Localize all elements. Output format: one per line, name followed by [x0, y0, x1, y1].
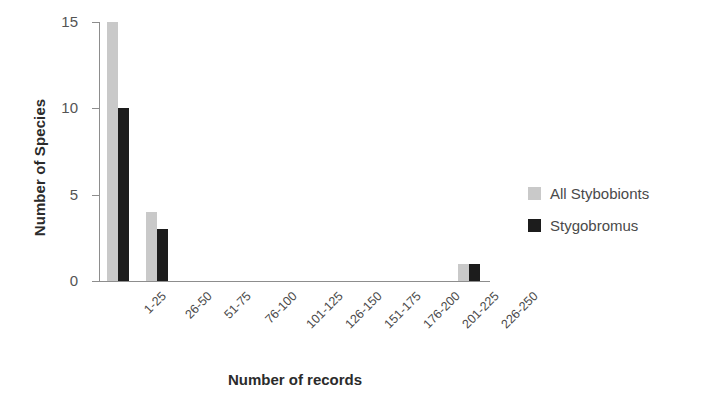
bar-group [295, 22, 334, 281]
y-axis-tick-label: 0 [44, 273, 78, 288]
x-axis-title: Number of records [100, 371, 490, 388]
bar-stygobromus [469, 264, 480, 281]
x-axis-tick-label: 1-25 [141, 289, 169, 317]
x-axis-tick-label: 226-250 [498, 289, 540, 331]
bar-group [451, 22, 490, 281]
x-axis-tick-label: 176-200 [420, 289, 462, 331]
y-axis-tick-mark [92, 281, 99, 282]
bar-stygobromus [118, 108, 129, 281]
legend-label: All Stybobionts [550, 186, 649, 201]
y-axis-tick-mark [92, 22, 99, 23]
plot-area [100, 22, 490, 281]
bar-group [178, 22, 217, 281]
y-axis-tick-labels: 051015 [44, 0, 78, 409]
x-axis-tick-label: 201-225 [459, 289, 501, 331]
chart-legend: All StybobiontsStygobromus [528, 186, 649, 250]
legend-swatch-gray [528, 187, 541, 200]
y-axis-tick-label: 15 [44, 14, 78, 29]
bar-group [334, 22, 373, 281]
y-axis-tick-label: 10 [44, 100, 78, 115]
bar-group [217, 22, 256, 281]
bar-chart-figure: Number of Species 051015 1-2526-5051-757… [0, 0, 717, 409]
bar-all-stybobionts [458, 264, 469, 281]
legend-item: All Stybobionts [528, 186, 649, 201]
bar-group [412, 22, 451, 281]
bar-stygobromus [157, 229, 168, 281]
x-axis-tick-label: 126-150 [342, 289, 384, 331]
x-axis-tick-label: 101-125 [303, 289, 345, 331]
x-axis-tick-label: 26-50 [182, 289, 215, 322]
y-axis-tick-mark [92, 108, 99, 109]
bar-group [373, 22, 412, 281]
x-axis-tick-label: 51-75 [221, 289, 254, 322]
bar-all-stybobionts [107, 22, 118, 281]
legend-item: Stygobromus [528, 218, 649, 233]
x-axis-tick-label: 151-175 [381, 289, 423, 331]
bar-group [100, 22, 139, 281]
x-axis-tick-labels: 1-2526-5051-7576-100101-125126-150151-17… [100, 281, 490, 361]
bar-all-stybobionts [146, 212, 157, 281]
bar-group [139, 22, 178, 281]
x-axis-tick-label: 76-100 [262, 289, 299, 326]
legend-label: Stygobromus [550, 218, 638, 233]
y-axis-tick-label: 5 [44, 187, 78, 202]
legend-swatch-black [528, 219, 541, 232]
y-axis-tick-mark [92, 195, 99, 196]
bar-group [256, 22, 295, 281]
